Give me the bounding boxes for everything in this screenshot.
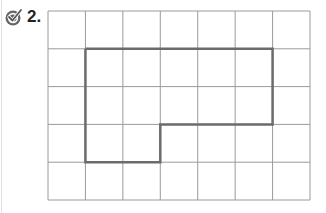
- dot-grid: [0, 0, 326, 213]
- shape-outline: [85, 49, 272, 162]
